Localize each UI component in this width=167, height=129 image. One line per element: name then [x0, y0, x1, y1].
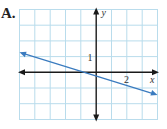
y-axis-label: y — [101, 7, 107, 18]
grid — [20, 10, 158, 120]
y-axis — [93, 8, 99, 122]
x-axis-label: x — [149, 74, 155, 85]
x-tick-label-2: 2 — [124, 74, 129, 85]
x-axis — [18, 69, 159, 75]
y-tick-label-1: 1 — [88, 52, 93, 63]
coordinate-plane: y x 1 2 — [0, 0, 167, 129]
